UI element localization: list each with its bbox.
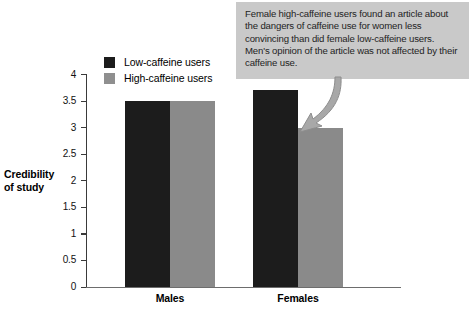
legend-item-low-caffeine: Low-caffeine users [104, 54, 212, 70]
y-axis-tick-label: 2 [36, 176, 76, 186]
y-axis-tick-label: 2.5 [36, 149, 76, 159]
bar-females-low-caffeine [253, 90, 298, 287]
bar-males-high-caffeine [170, 101, 215, 287]
y-axis-tick-label: 1.5 [36, 202, 76, 212]
legend-item-high-caffeine: High-caffeine users [104, 70, 212, 86]
y-axis-tick-mark [81, 287, 86, 288]
annotation-callout: Female high-caffeine users found an arti… [236, 2, 469, 79]
y-axis-line [86, 74, 87, 288]
y-axis-tick-label: 4 [36, 70, 76, 80]
bar-males-low-caffeine [125, 101, 170, 287]
y-axis-tick-label: 1 [36, 229, 76, 239]
y-axis-tick-label: 0 [36, 282, 76, 292]
x-axis-line [86, 287, 401, 288]
y-axis-tick-mark [81, 101, 86, 102]
y-axis-tick-mark [81, 154, 86, 155]
y-axis-tick-label: 3.5 [36, 96, 76, 106]
bar-females-high-caffeine [298, 128, 343, 287]
y-axis-tick-mark [81, 207, 86, 208]
annotation-callout-text: Female high-caffeine users found an arti… [245, 8, 461, 69]
legend-swatch-low-caffeine-icon [104, 57, 115, 68]
chart-legend: Low-caffeine users High-caffeine users [104, 54, 212, 86]
bar-chart-figure: Credibility of study 43.532.521.510.50 M… [0, 0, 469, 313]
y-axis-tick-label: 0.5 [36, 255, 76, 265]
legend-swatch-high-caffeine-icon [104, 73, 115, 84]
y-axis-tick-mark [81, 74, 86, 75]
x-axis-label-males: Males [110, 292, 230, 304]
y-axis-tick-mark [81, 260, 86, 261]
legend-label-low-caffeine: Low-caffeine users [124, 57, 210, 68]
y-axis-tick-mark [81, 233, 86, 234]
x-axis-label-females: Females [238, 292, 358, 304]
y-axis-tick-mark [81, 180, 86, 181]
y-axis-tick-label: 3 [36, 123, 76, 133]
y-axis-tick-mark [81, 127, 86, 128]
legend-label-high-caffeine: High-caffeine users [124, 73, 212, 84]
